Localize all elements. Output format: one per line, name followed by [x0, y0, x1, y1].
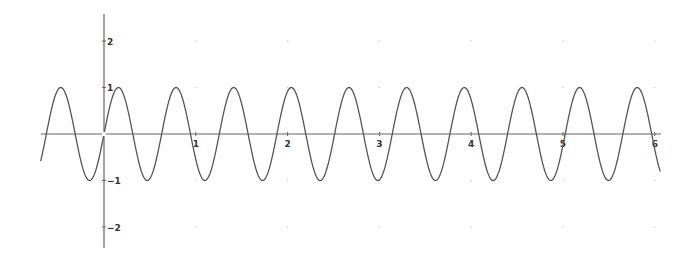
grid-dot: [470, 87, 472, 89]
y-tick-label: 2: [107, 37, 113, 47]
grid-dot: [379, 40, 381, 42]
grid-dot: [195, 87, 197, 89]
x-tick-label: 4: [468, 139, 474, 149]
y-tick-label: −2: [107, 223, 121, 233]
grid-dot: [562, 180, 564, 182]
grid-dot: [287, 226, 289, 228]
y-tick-label: −1: [107, 176, 121, 186]
x-tick-label: 2: [284, 139, 290, 149]
grid-dot: [470, 180, 472, 182]
grid-dot: [470, 226, 472, 228]
grid-dot: [195, 226, 197, 228]
sine-plot: 123456 21−1−2: [0, 0, 697, 259]
y-tick-label: 1: [107, 83, 113, 93]
grid-dot: [195, 40, 197, 42]
grid-dot: [379, 226, 381, 228]
origin-marker: [102, 132, 106, 136]
grid-dot: [195, 180, 197, 182]
grid-dot: [379, 87, 381, 89]
grid-dot: [287, 87, 289, 89]
grid-dot: [470, 40, 472, 42]
x-tick-label: 3: [376, 139, 382, 149]
grid-dot: [287, 40, 289, 42]
grid-dot: [654, 87, 656, 89]
grid-dot: [562, 87, 564, 89]
grid-dot: [654, 180, 656, 182]
grid-dot: [562, 40, 564, 42]
grid-dot: [562, 226, 564, 228]
grid-dot: [654, 226, 656, 228]
grid-dot: [654, 40, 656, 42]
grid-dot: [287, 180, 289, 182]
